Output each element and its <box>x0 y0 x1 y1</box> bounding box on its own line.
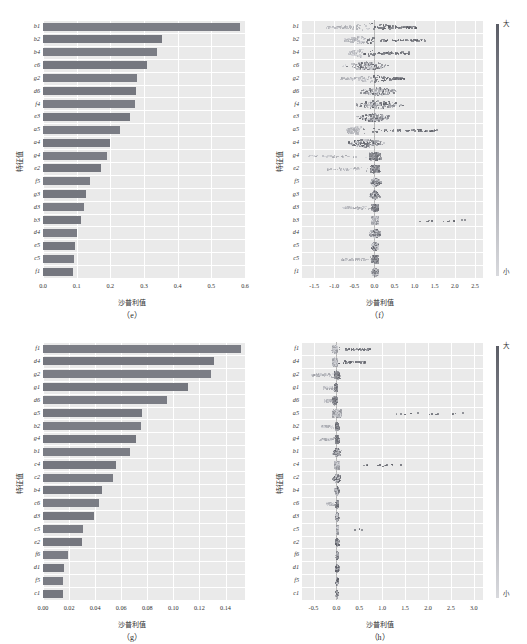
data-point <box>340 409 342 411</box>
data-point <box>322 374 324 376</box>
y-axis-label-d1: d1 <box>13 564 40 570</box>
data-point <box>402 26 404 28</box>
bar-e3 <box>43 113 130 121</box>
gridline-horizontal <box>302 265 483 266</box>
data-point <box>335 570 337 572</box>
data-point <box>335 477 337 479</box>
x-tick-label: 2.5 <box>461 282 489 289</box>
data-point <box>381 80 383 82</box>
y-axis-label-a5: a5 <box>272 126 299 132</box>
data-point <box>358 43 360 45</box>
data-point <box>336 390 338 392</box>
panel-h-caption: （h） <box>248 631 511 642</box>
y-axis-label-b2: b2 <box>13 423 40 429</box>
data-point <box>368 114 370 116</box>
data-point <box>385 40 387 42</box>
data-point <box>362 49 364 51</box>
bar-f5 <box>43 177 90 185</box>
data-point <box>348 142 350 144</box>
bar-d3 <box>43 203 84 211</box>
data-point <box>337 465 339 467</box>
gridline-horizontal <box>43 355 245 356</box>
data-point <box>395 104 397 106</box>
bar-f1 <box>43 268 73 276</box>
data-point <box>356 68 358 70</box>
data-point <box>361 529 363 531</box>
data-point <box>384 129 386 131</box>
panel-e: b1b2b4c6g2d6f4e3a5a4g4e2f5g3d3b3d4e5c5f1… <box>0 0 264 322</box>
gridline-horizontal <box>302 214 483 215</box>
data-point <box>388 53 390 55</box>
data-point <box>381 93 383 95</box>
data-point <box>375 274 377 276</box>
data-point <box>337 533 339 535</box>
data-point <box>315 375 317 377</box>
data-point <box>355 66 357 68</box>
panel-g-caption: （g） <box>0 631 264 642</box>
data-point <box>357 64 359 66</box>
bar-a5 <box>43 126 120 134</box>
panel-e-xlabel: 沙普利值 <box>0 297 264 307</box>
y-axis-label-a4: a4 <box>13 139 40 145</box>
data-point <box>334 27 336 29</box>
data-point <box>344 360 346 362</box>
bar-b4 <box>43 48 157 56</box>
y-axis-label-c5: c5 <box>13 526 40 532</box>
gridline-horizontal <box>302 342 483 343</box>
data-point <box>338 544 340 546</box>
y-axis-label-c6: c6 <box>13 500 40 506</box>
bar-g2 <box>43 74 137 82</box>
data-point <box>436 129 438 131</box>
data-point <box>354 39 356 41</box>
data-point <box>343 168 345 170</box>
data-point <box>426 221 428 223</box>
data-point <box>374 216 376 218</box>
data-point <box>345 349 347 351</box>
data-point <box>373 77 375 79</box>
bar-d6 <box>43 87 136 95</box>
data-point <box>371 120 373 122</box>
gridline-horizontal <box>302 226 483 227</box>
data-point <box>374 194 376 196</box>
data-point <box>339 377 341 379</box>
data-point <box>350 27 352 29</box>
panel-g: f1d4g2g1d6a5b2g4b1c4c2b4c6d3c5e2f6d1f5c1… <box>0 322 264 644</box>
data-point <box>374 236 376 238</box>
data-point <box>368 118 370 120</box>
data-point <box>373 171 375 173</box>
data-point <box>356 26 358 28</box>
data-point <box>362 68 364 70</box>
data-point <box>429 130 431 132</box>
gridline-horizontal <box>302 419 483 420</box>
data-point <box>357 36 359 38</box>
data-point <box>378 170 380 172</box>
data-point <box>337 501 339 503</box>
y-axis-label-b1: b1 <box>272 23 299 29</box>
data-point <box>362 42 364 44</box>
panel-f-xlabel: 沙普利值 <box>248 297 511 307</box>
data-point <box>362 115 364 117</box>
data-point <box>379 143 381 145</box>
data-point <box>334 437 336 439</box>
data-point <box>393 89 395 91</box>
gridline-horizontal <box>302 188 483 189</box>
gridline-horizontal <box>302 548 483 549</box>
y-axis-label-f6: f6 <box>272 551 299 557</box>
data-point <box>332 156 334 158</box>
gridline-horizontal <box>302 381 483 382</box>
data-point <box>373 119 375 121</box>
x-tick-label: 0.08 <box>133 604 161 611</box>
data-point <box>353 156 355 158</box>
gridline-horizontal <box>302 239 483 240</box>
y-axis-label-b3: b3 <box>13 217 40 223</box>
data-point <box>380 40 382 42</box>
data-point <box>357 66 359 68</box>
data-point <box>368 120 370 122</box>
gridline-horizontal <box>43 600 245 601</box>
data-point <box>329 504 331 506</box>
data-point <box>372 41 374 43</box>
gridline-horizontal <box>302 123 483 124</box>
data-point <box>372 244 374 246</box>
data-point <box>382 91 384 93</box>
data-point <box>373 197 375 199</box>
